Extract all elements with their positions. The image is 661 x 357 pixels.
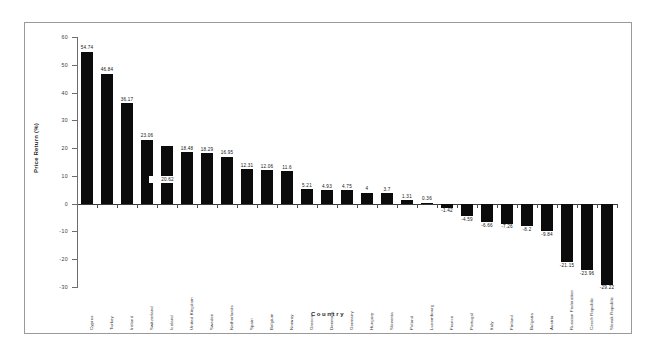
x-tick xyxy=(157,204,158,208)
x-tick xyxy=(237,204,238,208)
y-tick-label: 10 xyxy=(61,172,68,180)
x-tick xyxy=(497,204,498,208)
bar[interactable] xyxy=(341,190,353,203)
y-tick: -30 xyxy=(72,287,78,288)
bar[interactable] xyxy=(241,169,253,203)
x-tick xyxy=(217,204,218,208)
y-tick-label: 30 xyxy=(61,116,68,124)
bar-value-label: 3.7 xyxy=(369,187,405,193)
bar[interactable] xyxy=(581,204,593,271)
y-tick-label: 40 xyxy=(61,89,68,97)
bar-value-label: -1.42 xyxy=(429,208,465,214)
bar[interactable] xyxy=(361,193,373,204)
bar-value-label: 46.84 xyxy=(89,67,125,73)
bar[interactable] xyxy=(521,204,533,227)
y-tick-label: 0 xyxy=(65,200,68,208)
x-tick xyxy=(377,204,378,208)
y-tick: 50 xyxy=(72,65,78,66)
bar[interactable] xyxy=(201,153,213,204)
y-tick-label: 20 xyxy=(61,144,68,152)
x-category-label: Austria xyxy=(549,316,554,330)
y-tick-label: 50 xyxy=(61,61,68,69)
bar[interactable] xyxy=(481,204,493,223)
x-category-label: Cyprus xyxy=(89,315,94,330)
y-tick-label: -30 xyxy=(59,283,68,291)
x-tick xyxy=(417,204,418,208)
x-tick xyxy=(357,204,358,208)
bar[interactable] xyxy=(181,152,193,203)
bar-value-label: 0.36 xyxy=(409,196,445,202)
x-category-label: Netherlands xyxy=(229,305,234,330)
bar[interactable] xyxy=(161,146,173,203)
x-tick xyxy=(577,204,578,208)
x-category-label: Greece xyxy=(309,315,314,330)
bar-value-label: 11.6 xyxy=(269,165,305,171)
x-tick xyxy=(317,204,318,208)
bar[interactable] xyxy=(441,204,453,208)
x-tick xyxy=(117,204,118,208)
x-category-label: Poland xyxy=(409,316,414,330)
x-category-label: Ireland xyxy=(129,316,134,330)
x-tick xyxy=(437,204,438,208)
bar[interactable] xyxy=(261,170,273,204)
x-tick xyxy=(397,204,398,208)
x-tick xyxy=(517,204,518,208)
chart-frame: Price Return (%) 6050403020100-10-20-30 … xyxy=(24,22,632,334)
x-tick xyxy=(597,204,598,208)
bar[interactable] xyxy=(601,204,613,285)
bar-value-label: 16.95 xyxy=(209,150,245,156)
bar[interactable] xyxy=(541,204,553,231)
x-category-label: France xyxy=(449,316,454,330)
x-tick xyxy=(457,204,458,208)
bar[interactable] xyxy=(421,203,433,204)
bar-value-label: -23.96 xyxy=(569,271,605,277)
x-category-label: Italy xyxy=(489,321,494,330)
bar-value-label: -29.22 xyxy=(589,285,625,291)
y-tick: 60 xyxy=(72,37,78,38)
bar-value-label: 36.17 xyxy=(109,97,145,103)
x-tick xyxy=(97,204,98,208)
bar-value-label: 23.06 xyxy=(129,133,165,139)
x-tick xyxy=(617,204,618,208)
x-tick xyxy=(297,204,298,208)
y-axis-title: Price Return (%) xyxy=(33,123,39,173)
y-tick: 0 xyxy=(72,204,78,205)
bar[interactable] xyxy=(81,52,93,204)
x-axis-line xyxy=(77,204,617,205)
x-tick xyxy=(197,204,198,208)
bar[interactable] xyxy=(561,204,573,263)
y-tick: 10 xyxy=(72,176,78,177)
x-tick xyxy=(477,204,478,208)
bar[interactable] xyxy=(461,204,473,217)
bar[interactable] xyxy=(301,189,313,203)
y-tick: 30 xyxy=(72,120,78,121)
bar[interactable] xyxy=(121,103,133,203)
bar-value-label: 54.74 xyxy=(69,45,105,51)
y-tick-label: -10 xyxy=(59,227,68,235)
x-tick xyxy=(257,204,258,208)
x-tick xyxy=(537,204,538,208)
bar-value-label: -9.84 xyxy=(529,232,565,238)
y-tick: 40 xyxy=(72,93,78,94)
y-tick-label: 60 xyxy=(61,33,68,41)
bar[interactable] xyxy=(141,140,153,204)
bar[interactable] xyxy=(501,204,513,224)
bar[interactable] xyxy=(101,74,113,204)
x-category-label: Luxembourg xyxy=(429,305,434,330)
y-axis-line xyxy=(77,37,78,287)
x-category-label: Spain xyxy=(249,318,254,330)
bar[interactable] xyxy=(321,190,333,204)
x-tick xyxy=(277,204,278,208)
x-category-label: Iceland xyxy=(169,315,174,330)
y-tick: -20 xyxy=(72,259,78,260)
x-category-label: Turkey xyxy=(109,316,114,330)
x-tick xyxy=(177,204,178,208)
x-axis-title: Country xyxy=(25,311,631,317)
y-tick-label: -20 xyxy=(59,255,68,263)
x-category-label: Finland xyxy=(509,315,514,330)
bar-value-label: -21.15 xyxy=(549,263,585,269)
x-tick xyxy=(337,204,338,208)
y-tick: 20 xyxy=(72,148,78,149)
y-tick: -10 xyxy=(72,231,78,232)
x-category-label: Switzerland xyxy=(149,306,154,330)
